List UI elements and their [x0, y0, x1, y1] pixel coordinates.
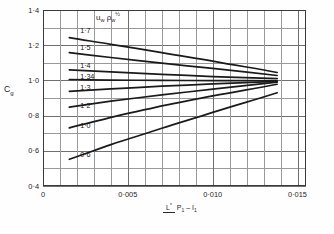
x-tick-label: 0·005 — [108, 190, 148, 199]
y-axis-title: Cg — [4, 84, 14, 96]
curve-1-4 — [69, 70, 277, 79]
x-axis-title-numerator: L* — [163, 203, 175, 213]
y-tick-label: 0·6 — [14, 146, 39, 155]
y-tick-label: 0·8 — [14, 111, 39, 120]
curve-label: 1·3 — [80, 83, 90, 92]
x-tick-label: 0 — [23, 190, 63, 199]
x-denominator-i-subscript: 1 — [194, 208, 197, 214]
curve-layer — [43, 10, 306, 186]
curve-1-0 — [69, 84, 277, 128]
x-axis-title: L* P1 – I1 — [163, 203, 197, 214]
curve-1-7 — [69, 38, 277, 73]
curve-label: 1·2 — [80, 101, 90, 110]
y-tick-label: 1·0 — [14, 76, 39, 85]
x-numerator-superscript: * — [170, 202, 172, 208]
u-subscript: w — [100, 17, 104, 23]
rho-superscript: ½ — [115, 11, 120, 17]
curve-label: 1·0 — [80, 121, 90, 130]
curve-1-34 — [69, 80, 277, 81]
x-tick-label: 0·015 — [278, 190, 318, 199]
x-tick-label: 0·010 — [193, 190, 233, 199]
rho-subscript: w — [111, 17, 115, 23]
gridline-horizontal — [43, 186, 306, 187]
curve-label: 1·7 — [80, 26, 90, 35]
chart-figure: Cg 1·71·51·41·341·31·21·00·6 1·41·21·00·… — [0, 0, 334, 234]
x-axis-title-denominator: P1 – I1 — [177, 204, 197, 214]
y-tick-label: 1·4 — [14, 6, 39, 15]
curve-label: 1·4 — [80, 61, 90, 70]
plot-area: 1·71·51·41·341·31·21·00·6 — [43, 10, 306, 186]
velocity-density-annotation: uw ρw½ — [96, 11, 120, 23]
curve-label: 1·5 — [80, 43, 90, 52]
y-tick-label: 1·2 — [14, 41, 39, 50]
x-denominator-separator: – — [184, 204, 192, 211]
curve-label: 1·34 — [80, 72, 94, 81]
curve-label: 0·6 — [80, 150, 90, 159]
y-axis-title-subscript: g — [10, 90, 13, 96]
